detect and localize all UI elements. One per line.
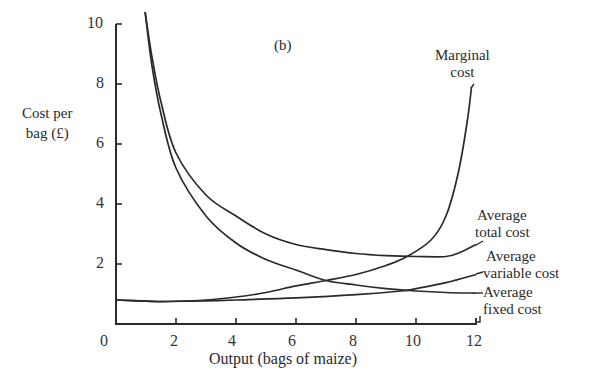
atc-leader — [476, 241, 483, 245]
mc-leader — [471, 84, 474, 88]
y-axis-label-line1: Cost per — [22, 103, 72, 123]
x-tick-12: 12 — [466, 332, 482, 350]
avc-label-line1: Average — [483, 248, 559, 265]
axes — [116, 24, 477, 325]
leader-lines — [471, 84, 483, 322]
average-total-cost-label: Average total cost — [475, 207, 530, 241]
average-total-cost-curve — [145, 12, 476, 257]
marginal-cost-label-line1: Marginal — [435, 47, 490, 64]
x-tick-0: 0 — [100, 332, 108, 350]
y-tick-6: 6 — [96, 134, 104, 152]
marginal-cost-label: Marginal cost — [435, 47, 490, 81]
y-axis-label: Cost per bag (£) — [22, 103, 72, 143]
average-fixed-cost-label: Average fixed cost — [483, 284, 542, 318]
average-variable-cost-label: Average variable cost — [483, 248, 559, 282]
y-tick-10: 10 — [87, 14, 103, 32]
panel-label: (b) — [274, 37, 292, 54]
average-variable-cost-curve — [116, 275, 476, 302]
curves — [116, 12, 476, 302]
atc-label-line2: total cost — [475, 224, 530, 241]
y-tick-8: 8 — [96, 74, 104, 92]
atc-label-line1: Average — [475, 207, 530, 224]
cost-curves-chart — [0, 0, 607, 390]
marginal-cost-label-line2: cost — [435, 64, 490, 81]
y-tick-4: 4 — [96, 194, 104, 212]
y-tick-2: 2 — [96, 254, 104, 272]
x-tick-8: 8 — [349, 332, 357, 350]
afc-label-line2: fixed cost — [483, 301, 542, 318]
avc-leader — [476, 272, 483, 274]
avc-label-line2: variable cost — [483, 265, 559, 282]
average-fixed-cost-curve — [145, 12, 476, 293]
afc-label-line1: Average — [483, 284, 542, 301]
tick-marks — [116, 24, 476, 324]
afc-bracket — [476, 316, 480, 322]
x-axis-label: Output (bags of maize) — [209, 350, 357, 367]
x-tick-2: 2 — [170, 332, 178, 350]
x-tick-10: 10 — [405, 332, 421, 350]
y-axis-label-line2: bag (£) — [22, 123, 72, 143]
x-tick-4: 4 — [228, 332, 236, 350]
x-tick-6: 6 — [288, 332, 296, 350]
